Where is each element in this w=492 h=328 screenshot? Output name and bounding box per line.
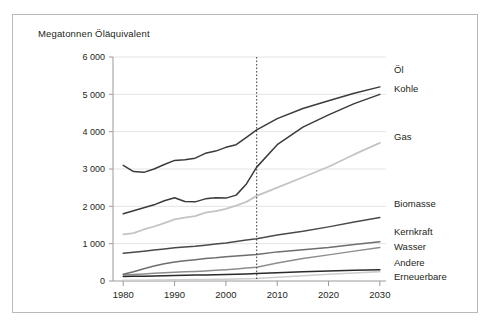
y-axis-tick-label: 5 000 xyxy=(82,90,105,100)
y-axis-tick-labels: 01 0002 0003 0004 0005 0006 000 xyxy=(82,52,105,286)
series-line-öl xyxy=(123,87,380,172)
series-line-kohle xyxy=(123,94,380,213)
series-line-biomasse xyxy=(123,218,380,254)
series-label-andere: Andere xyxy=(394,257,425,268)
series-lines xyxy=(123,87,380,280)
x-axis-tick-label: 2010 xyxy=(267,289,288,300)
y-axis-ticks xyxy=(109,57,113,281)
y-axis-tick-label: 0 xyxy=(100,276,105,286)
x-axis-tick-label: 1980 xyxy=(113,289,134,300)
chart-canvas: 01 0002 0003 0004 0005 0006 000 19801990… xyxy=(0,0,492,328)
y-axis-tick-label: 1 000 xyxy=(82,239,105,249)
series-label-kernkraft: Kernkraft xyxy=(394,226,433,237)
series-line-gas xyxy=(123,143,380,234)
x-axis-tick-label: 2030 xyxy=(369,289,390,300)
series-label-kohle: Kohle xyxy=(394,83,418,94)
gridlines xyxy=(113,57,386,244)
x-axis-tick-labels: 198019902000201020202030 xyxy=(113,289,391,300)
series-label-wasser: Wasser xyxy=(394,241,426,252)
x-axis-tick-label: 1990 xyxy=(164,289,185,300)
series-line-kernkraft xyxy=(123,242,380,274)
series-label-öl: Öl xyxy=(394,64,404,75)
series-label-gas: Gas xyxy=(394,131,412,142)
y-axis-tick-label: 3 000 xyxy=(82,164,105,174)
x-axis-tick-label: 2000 xyxy=(215,289,236,300)
series-labels: ÖlKohleGasBiomasseKernkraftWasserAndereE… xyxy=(394,64,447,282)
y-axis-tick-label: 4 000 xyxy=(82,127,105,137)
series-label-erneuerbare: Erneuerbare xyxy=(394,271,447,282)
x-axis-ticks xyxy=(123,281,380,286)
y-axis-tick-label: 2 000 xyxy=(82,202,105,212)
x-axis-tick-label: 2020 xyxy=(318,289,339,300)
line-chart-svg: 01 0002 0003 0004 0005 0006 000 19801990… xyxy=(0,0,492,328)
y-axis-tick-label: 6 000 xyxy=(82,52,105,62)
series-label-biomasse: Biomasse xyxy=(394,198,436,209)
